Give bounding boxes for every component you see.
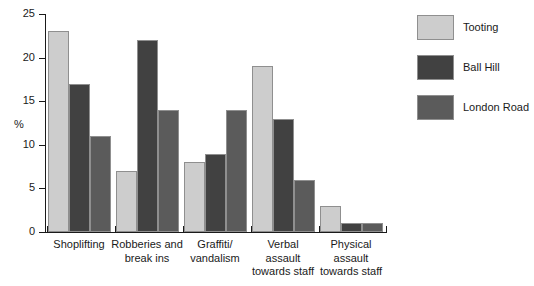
x-axis-category-label-line: towards staff [303, 265, 399, 279]
bar [205, 154, 226, 232]
legend-swatch [417, 55, 454, 80]
bar [158, 110, 179, 232]
x-axis-category-label-line: assault [303, 252, 399, 266]
bar [226, 110, 247, 232]
bar [320, 206, 341, 232]
bar-group [252, 14, 315, 232]
bar [48, 31, 69, 232]
legend-item: Ball Hill [417, 54, 534, 80]
bar-group [184, 14, 247, 232]
legend-swatch [417, 95, 454, 120]
legend-label: Ball Hill [463, 61, 500, 74]
y-axis-tick-label: 25 [23, 7, 35, 20]
y-axis-tick-label: 20 [23, 51, 35, 64]
legend-swatch [417, 15, 454, 40]
bar-chart: 0510152025 % ShopliftingRobberies andbre… [0, 0, 534, 286]
bar [252, 66, 273, 232]
bar-group [48, 14, 111, 232]
chart-legend: TootingBall HillLondon Road [417, 14, 534, 134]
x-axis-line [45, 232, 386, 233]
legend-label: London Road [463, 101, 529, 114]
bar [341, 223, 362, 232]
bar [116, 171, 137, 232]
plot-area [45, 14, 385, 232]
y-axis-tick-label: 15 [23, 94, 35, 107]
x-axis-category-label-line: Physical [303, 238, 399, 252]
x-axis-tick [386, 226, 387, 233]
y-axis-tick-label: 10 [23, 138, 35, 151]
bar [137, 40, 158, 232]
legend-item: Tooting [417, 14, 534, 40]
bar [294, 180, 315, 232]
y-axis-tick-label: 5 [29, 181, 35, 194]
y-axis-title: % [14, 118, 24, 131]
bar [184, 162, 205, 232]
legend-label: Tooting [463, 21, 498, 34]
legend-item: London Road [417, 94, 534, 120]
bar-group [320, 14, 383, 232]
bar [273, 119, 294, 232]
bar [362, 223, 383, 232]
bar [69, 84, 90, 232]
bar-group [116, 14, 179, 232]
bar [90, 136, 111, 232]
y-axis-tick-label: 0 [29, 225, 35, 238]
x-axis-category-label: Physicalassaulttowards staff [303, 238, 399, 279]
